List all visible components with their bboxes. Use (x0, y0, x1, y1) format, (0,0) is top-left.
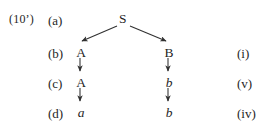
example-number: (10’) (9, 13, 34, 25)
row-label-d: (d) (48, 107, 63, 120)
tree-node-right-d: b (162, 106, 176, 120)
tree-node-right-c: b (162, 76, 176, 90)
roman-label-c: (v) (237, 77, 252, 90)
derivation-tree-figure: (10’) (a) (b) (c) (d) (i) (v) (iv) S A A… (0, 0, 280, 129)
roman-label-d: (iv) (237, 107, 256, 120)
tree-node-right-b: B (162, 46, 176, 60)
roman-label-b: (i) (237, 47, 249, 60)
row-label-c: (c) (48, 77, 62, 90)
row-label-b: (b) (48, 47, 63, 60)
tree-node-root: S (119, 12, 127, 26)
arrow-root-to-right (130, 26, 166, 41)
tree-node-left-b: A (74, 46, 88, 60)
arrow-root-to-left (82, 26, 117, 41)
tree-node-left-d: a (74, 106, 88, 120)
tree-node-left-c: A (74, 76, 88, 90)
row-label-a: (a) (48, 14, 62, 27)
